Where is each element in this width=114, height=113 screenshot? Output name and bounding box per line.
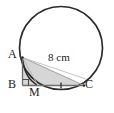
point-label-c: C (85, 78, 93, 90)
point-label-a: A (8, 48, 17, 60)
point-a-dot (21, 56, 23, 58)
point-label-b: B (8, 78, 16, 90)
measurement-label-8cm: 8 cm (48, 52, 70, 63)
point-label-m: M (29, 86, 40, 98)
geometry-figure: A B M C 8 cm (0, 0, 114, 113)
